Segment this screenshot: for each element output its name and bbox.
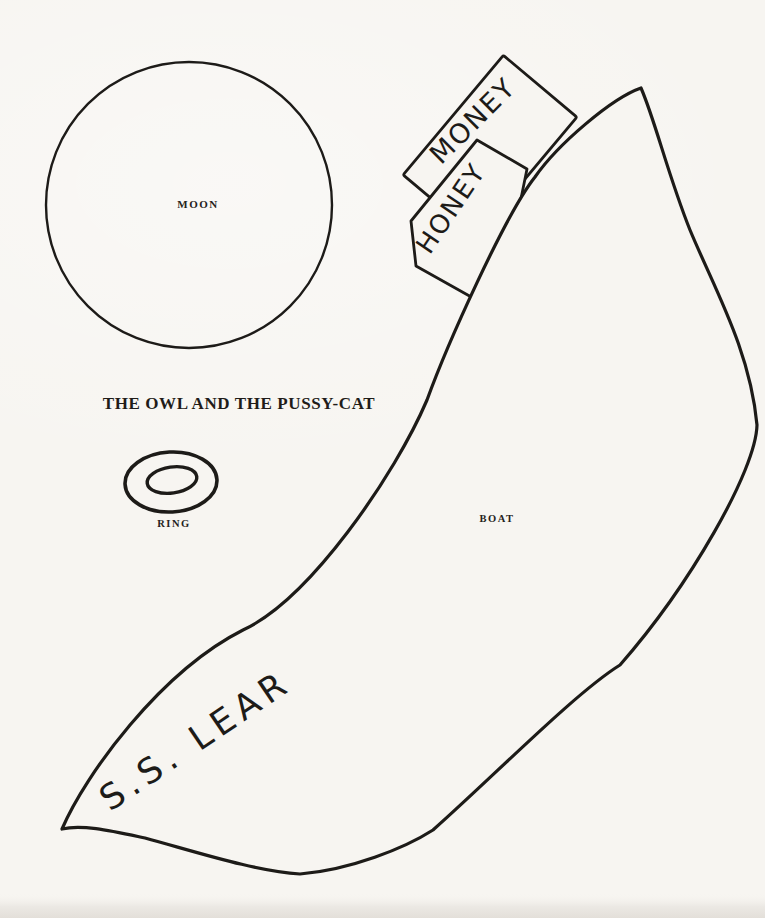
scanned-page: MOON THE OWL AND THE PUSSY-CAT RING MONE… — [0, 0, 765, 918]
ring-label: RING — [157, 518, 190, 529]
ring-inner-ellipse — [145, 464, 198, 497]
boat-label: BOAT — [480, 513, 515, 524]
illustration-canvas: MOON THE OWL AND THE PUSSY-CAT RING MONE… — [0, 0, 765, 918]
moon-label: MOON — [177, 198, 218, 210]
page-title: THE OWL AND THE PUSSY-CAT — [103, 394, 376, 413]
ring-figure — [123, 450, 218, 515]
ring-outer-ellipse — [123, 450, 218, 515]
paper-bottom-edge — [0, 893, 765, 918]
